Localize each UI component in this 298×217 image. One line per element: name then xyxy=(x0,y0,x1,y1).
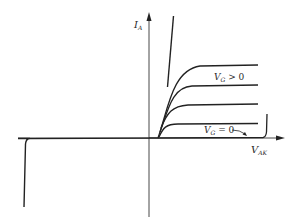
x-axis-label: VAK xyxy=(251,144,268,156)
y-axis-arrow-icon xyxy=(147,12,152,21)
vg-zero-label: VG = 0 xyxy=(204,125,235,136)
vg-positive-label: VG > 0 xyxy=(214,72,245,83)
thyristor-iv-diagram: IA VAK VG > 0 VG = 0 xyxy=(0,0,298,217)
on-state-line xyxy=(168,16,174,87)
x-axis-arrow-icon xyxy=(276,136,285,141)
reverse-breakdown-curve xyxy=(18,139,30,208)
y-axis-label: IA xyxy=(133,19,143,31)
